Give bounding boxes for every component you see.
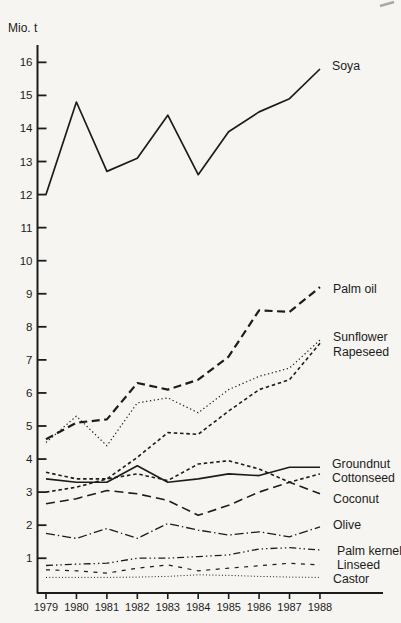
y-axis-tick-label: 7 xyxy=(26,354,32,366)
y-axis-tick-label: 5 xyxy=(26,420,32,432)
series-label-olive: Olive xyxy=(333,518,361,532)
y-axis-tick-label: 14 xyxy=(20,122,33,134)
series-label-sunflower: Sunflower xyxy=(333,330,388,344)
y-axis-tick-label: 6 xyxy=(26,387,32,399)
y-axis-tick-label: 4 xyxy=(26,453,33,465)
y-axis-unit-label: Mio. t xyxy=(8,21,38,35)
y-axis-tick-label: 13 xyxy=(20,156,33,168)
x-axis-year-label: 1980 xyxy=(64,601,88,613)
series-line-soya xyxy=(46,69,320,195)
series-line-cottonseed xyxy=(46,461,320,483)
x-axis-year-label: 1985 xyxy=(216,601,240,613)
series-line-castor xyxy=(46,575,320,578)
x-axis-year-label: 1982 xyxy=(125,601,149,613)
x-axis-year-label: 1981 xyxy=(95,601,119,613)
axes-layer: 1234567891011121314151619791980198119821… xyxy=(20,45,383,613)
series-label-rapeseed: Rapeseed xyxy=(333,345,389,359)
series-line-groundnut xyxy=(46,466,320,483)
y-axis-tick-label: 2 xyxy=(26,519,32,531)
series-line-sunflower xyxy=(46,340,320,446)
y-axis-tick-label: 3 xyxy=(26,486,32,498)
x-axis-year-label: 1979 xyxy=(34,601,58,613)
series-layer xyxy=(46,69,320,577)
x-axis-year-label: 1984 xyxy=(186,601,210,613)
y-axis-tick-label: 1 xyxy=(26,552,32,564)
series-line-palm-oil xyxy=(46,287,320,439)
x-axis-year-label: 1987 xyxy=(277,601,301,613)
series-label-cottonseed: Cottonseed xyxy=(332,471,395,485)
series-label-coconut: Coconut xyxy=(333,492,379,506)
y-axis-tick-label: 9 xyxy=(26,288,32,300)
series-label-linseed: Linseed xyxy=(337,558,380,572)
y-axis-tick-label: 16 xyxy=(20,56,33,68)
y-axis-tick-label: 8 xyxy=(26,321,32,333)
series-line-coconut xyxy=(46,482,320,515)
series-line-linseed xyxy=(46,563,320,573)
series-label-palm-oil: Palm oil xyxy=(333,282,377,296)
oil-production-line-chart: Mio. t 123456789101112131415161979198019… xyxy=(0,0,401,623)
series-line-palm-kernel xyxy=(46,548,320,566)
y-axis-tick-label: 11 xyxy=(21,222,33,234)
x-axis-year-label: 1988 xyxy=(308,601,332,613)
series-label-soya: Soya xyxy=(332,59,360,73)
scan-artifact xyxy=(380,2,394,6)
chart-page: Mio. t 123456789101112131415161979198019… xyxy=(0,0,401,623)
y-axis-tick-label: 10 xyxy=(20,255,33,267)
x-axis-year-label: 1983 xyxy=(156,601,180,613)
x-axis-year-label: 1986 xyxy=(247,601,271,613)
y-axis-tick-label: 15 xyxy=(20,89,33,101)
series-labels-layer: SoyaPalm oilSunflowerRapeseedGroundnutCo… xyxy=(332,59,401,586)
series-label-groundnut: Groundnut xyxy=(332,457,391,471)
series-label-castor: Castor xyxy=(333,572,369,586)
series-label-palm-kernel: Palm kernel xyxy=(337,544,401,558)
y-axis-tick-label: 12 xyxy=(20,189,33,201)
series-line-olive xyxy=(46,524,320,539)
